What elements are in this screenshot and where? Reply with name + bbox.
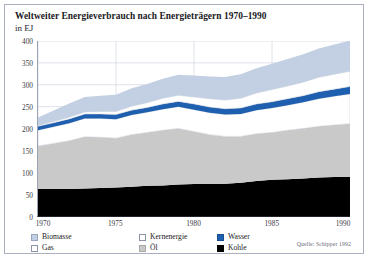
legend-item-wasser: Wasser [217,233,250,241]
legend-label: Wasser [228,233,250,241]
y-tick-label: 0 [29,213,33,222]
y-tick-label: 250 [22,103,33,112]
legend-label: Biomasse [42,233,72,241]
x-axis-labels: 19701975198019851990 [37,219,350,231]
y-tick-label: 200 [22,125,33,134]
legend-label: Gas [42,244,54,252]
chart-title: Weltweiter Energieverbrauch nach Energie… [15,11,355,22]
legend-swatch-icon [139,245,146,252]
chart-legend: BiomasseGasKernenergieÖlWasserKohle [31,233,331,255]
legend-item-biomasse: Biomasse [31,233,72,241]
y-tick-label: 100 [22,169,33,178]
y-tick-label: 300 [22,81,33,90]
x-tick-label: 1980 [186,219,201,228]
stacked-area-chart [38,41,350,216]
y-tick-label: 350 [22,59,33,68]
source-note: Quelle: Schipper 1992 [297,241,351,247]
legend-swatch-icon [217,234,224,241]
x-tick-label: 1990 [336,219,351,228]
legend-swatch-icon [31,245,38,252]
legend-swatch-icon [31,234,38,241]
x-tick-label: 1985 [264,219,279,228]
y-axis-labels: 050100150200250300350400 [5,5,37,217]
legend-swatch-icon [217,245,224,252]
legend-item-kernenergie: Kernenergie [139,233,187,241]
y-tick-label: 50 [26,191,33,200]
legend-item-kohle: Kohle [217,244,247,252]
legend-label: Kohle [228,244,247,252]
figure-frame: Weltweiter Energieverbrauch nach Energie… [4,4,364,254]
legend-item-l: Öl [139,244,158,252]
plot-area [37,41,350,217]
legend-label: Öl [150,244,158,252]
legend-swatch-icon [139,234,146,241]
y-tick-label: 400 [22,37,33,46]
legend-label: Kernenergie [150,233,187,241]
legend-item-gas: Gas [31,244,54,252]
y-tick-label: 150 [22,147,33,156]
x-tick-label: 1975 [108,219,123,228]
caption-strip [4,256,164,263]
x-tick-label: 1970 [36,219,51,228]
